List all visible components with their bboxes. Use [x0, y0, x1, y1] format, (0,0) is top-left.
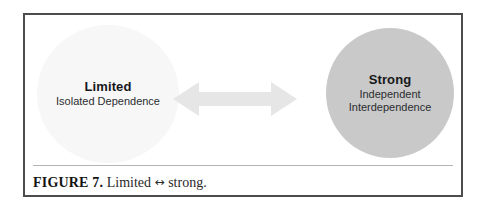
- caption-text-after: strong.: [165, 175, 207, 190]
- diagram-area: Limited Isolated Dependence Strong Indep…: [25, 15, 461, 164]
- node-subtitle-limited-line-1: Isolated Dependence: [56, 95, 160, 109]
- node-title-limited: Limited: [85, 79, 132, 94]
- figure-caption: FIGURE 7. Limited ↔ strong.: [33, 175, 453, 191]
- caption-divider: [33, 165, 453, 166]
- figure-root: Limited Isolated Dependence Strong Indep…: [0, 0, 488, 210]
- figure-frame: Limited Isolated Dependence Strong Indep…: [23, 13, 463, 197]
- double-headed-arrow-icon: [173, 78, 297, 120]
- node-subtitle-strong-line-2: Interdependence: [349, 101, 432, 115]
- node-title-strong: Strong: [369, 72, 411, 87]
- node-subtitle-strong-line-1: Independent: [359, 88, 420, 102]
- caption-arrow-icon: ↔: [155, 175, 165, 189]
- node-circle-strong: Strong Independent Interdependence: [326, 28, 454, 158]
- node-circle-limited: Limited Isolated Dependence: [37, 25, 179, 163]
- caption-text-before: Limited: [103, 175, 154, 190]
- caption-label: FIGURE 7.: [33, 175, 103, 190]
- connector-arrow: [173, 78, 297, 120]
